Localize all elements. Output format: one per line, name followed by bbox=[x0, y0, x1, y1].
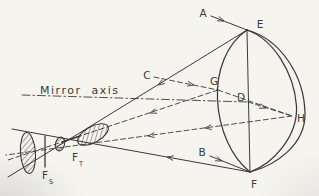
ray-c-label: C bbox=[143, 69, 150, 81]
point-label-h: H bbox=[297, 112, 305, 124]
ray-a-label: A bbox=[199, 7, 207, 19]
ray-d-line bbox=[248, 102, 292, 116]
sagittal-focus-label: F S bbox=[42, 169, 53, 186]
point-label-f: F bbox=[251, 178, 257, 190]
focal-region: F T F S bbox=[19, 119, 112, 186]
incident-rays: A B C D bbox=[143, 7, 292, 172]
mirror-astigmatism-figure: Mirror axis A B C D E F G H bbox=[0, 0, 319, 196]
tangential-focus-subscript: T bbox=[78, 160, 83, 168]
point-label-e: E bbox=[257, 18, 264, 30]
point-label-g: G bbox=[210, 75, 218, 87]
ray-a-line bbox=[211, 16, 247, 30]
mirror bbox=[217, 30, 305, 172]
mirror-axis-label: Mirror axis bbox=[40, 84, 119, 97]
ray-d-label: D bbox=[237, 91, 245, 103]
beam-cross-section-large bbox=[74, 119, 111, 149]
ray-b-label: B bbox=[198, 146, 205, 158]
beam-cross-section-defocused bbox=[19, 132, 37, 174]
reflected-ray-from-f bbox=[12, 129, 250, 172]
sagittal-focus-subscript: S bbox=[49, 178, 53, 186]
reflected-ray-from-e bbox=[8, 30, 247, 177]
diagram-canvas: Mirror axis A B C D E F G H bbox=[0, 0, 319, 196]
tangential-focus-label: F T bbox=[72, 151, 83, 168]
tangential-focus-letter: F bbox=[72, 151, 78, 163]
ray-b-line bbox=[210, 156, 250, 172]
reflected-rays bbox=[6, 30, 292, 177]
mirror-front-rim-left-arc bbox=[217, 30, 250, 172]
sagittal-focus-letter: F bbox=[42, 169, 48, 181]
reflected-ray-from-g bbox=[8, 90, 218, 160]
